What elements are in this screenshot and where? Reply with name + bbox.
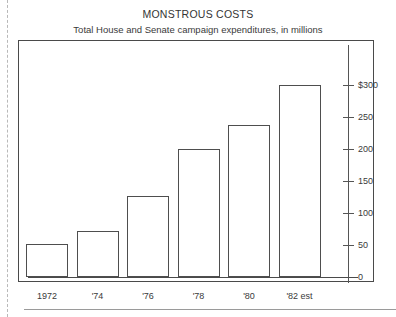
y-axis-tick-label: $300 — [358, 80, 378, 90]
x-axis-tick-label: '76 — [142, 291, 154, 301]
y-axis-tick — [343, 213, 354, 214]
y-axis-tick-label: 150 — [358, 176, 373, 186]
y-axis-tick — [343, 149, 354, 150]
y-axis-tick-label: 100 — [358, 208, 373, 218]
y-axis-tick-label: 50 — [358, 240, 368, 250]
x-axis-tick-label: '74 — [92, 291, 104, 301]
y-axis-tick-label: 200 — [358, 144, 373, 154]
y-axis-tick — [343, 245, 354, 246]
y-axis-tick-label: 0 — [358, 272, 363, 282]
chart-subtitle: Total House and Senate campaign expendit… — [0, 24, 396, 35]
chart-figure: MONSTROUS COSTS Total House and Senate c… — [0, 0, 396, 317]
bar — [178, 149, 220, 277]
y-axis-tick — [343, 181, 354, 182]
y-axis-tick — [343, 85, 354, 86]
plot-area — [18, 40, 374, 282]
x-axis-tick-label: 1972 — [37, 291, 57, 301]
chart-title: MONSTROUS COSTS — [0, 8, 396, 20]
y-axis-line — [348, 45, 349, 283]
page-edge-dashed-line — [7, 0, 8, 317]
bar — [228, 125, 270, 277]
bar — [279, 85, 321, 277]
y-axis-tick-label: 250 — [358, 112, 373, 122]
bar — [77, 231, 119, 277]
bar — [26, 244, 68, 277]
x-axis-baseline — [28, 277, 358, 278]
x-axis-tick-label: '80 — [243, 291, 255, 301]
bar — [127, 196, 169, 277]
y-axis-tick — [343, 117, 354, 118]
x-axis-tick-label: '78 — [193, 291, 205, 301]
x-axis-tick-label: '82 est — [286, 291, 312, 301]
bottom-divider — [24, 309, 396, 310]
